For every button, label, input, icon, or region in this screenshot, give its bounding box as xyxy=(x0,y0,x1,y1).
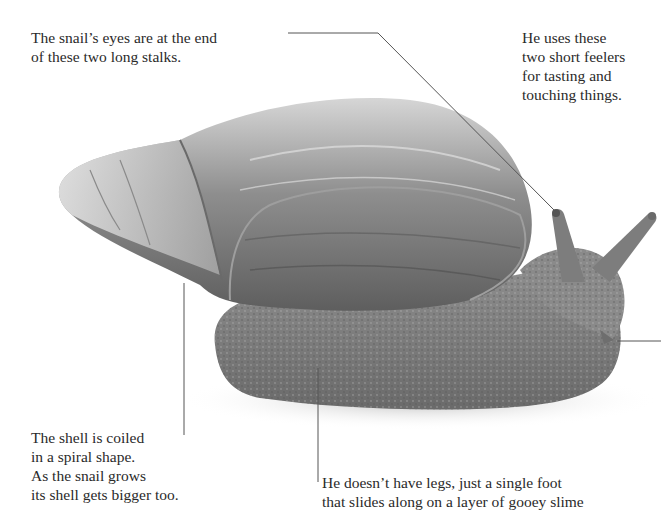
caption-feelers: He uses these two short feelers for tast… xyxy=(522,28,661,104)
caption-line: He uses these xyxy=(522,28,661,47)
caption-line: As the snail grows xyxy=(31,466,231,485)
caption-line: touching things. xyxy=(522,85,661,104)
caption-line: The shell is coiled xyxy=(31,428,231,447)
caption-line: He doesn’t have legs, just a single foot xyxy=(322,473,661,492)
caption-line: its shell gets bigger too. xyxy=(31,485,231,504)
snail-shell xyxy=(59,98,532,311)
caption-line: of these two long stalks. xyxy=(31,47,301,66)
caption-line: two short feelers xyxy=(522,47,661,66)
caption-eyes: The snail’s eyes are at the end of these… xyxy=(31,28,301,66)
caption-line: in a spiral shape. xyxy=(31,447,231,466)
caption-shell: The shell is coiled in a spiral shape. A… xyxy=(31,428,231,504)
caption-line: that slides along on a layer of gooey sl… xyxy=(322,492,661,511)
eye-stalk-right xyxy=(592,213,656,282)
caption-line: The snail’s eyes are at the end xyxy=(31,28,301,47)
caption-foot: He doesn’t have legs, just a single foot… xyxy=(322,473,661,511)
caption-line: for tasting and xyxy=(522,66,661,85)
